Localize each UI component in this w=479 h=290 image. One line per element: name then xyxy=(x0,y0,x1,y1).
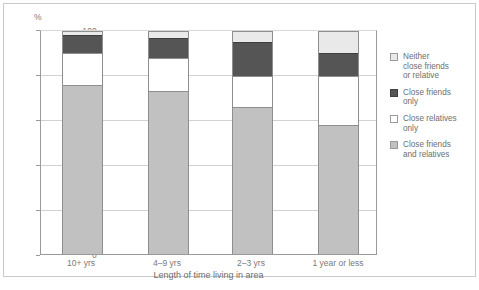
bar-2-3-yrs[interactable] xyxy=(232,31,273,254)
legend-label-close-relatives-only-line1: Close relatives xyxy=(403,114,476,124)
legend-item-neither[interactable]: Neither close friends or relative xyxy=(390,52,476,81)
legend-label-neither-line1: Neither xyxy=(403,52,476,62)
segment-neither xyxy=(233,31,272,42)
bar-top-edge xyxy=(233,31,272,32)
bar-top-edge xyxy=(63,31,102,32)
segment-neither xyxy=(319,31,358,53)
legend-label-neither-line2: close friends xyxy=(403,62,476,72)
segment-close-relatives-only xyxy=(233,76,272,107)
legend-label-close-friends-and-relatives-line1: Close friends xyxy=(403,140,476,150)
bar-4-9-yrs[interactable] xyxy=(148,31,189,254)
segment-close-relatives-only xyxy=(149,58,188,91)
x-tick-label-2-3-yrs: 2–3 yrs xyxy=(206,258,296,268)
x-tick-label-1-year-or-less: 1 year or less xyxy=(293,258,383,268)
segment-close-friends-only xyxy=(149,38,188,58)
x-tick-label-10-plus-yrs: 10+ yrs xyxy=(36,258,126,268)
legend-label-close-friends-only-line1: Close friends xyxy=(403,88,476,98)
plot-area xyxy=(40,30,377,255)
y-tick-mark-0 xyxy=(36,255,40,256)
chart-figure: % 100 80 60 40 20 0 xyxy=(0,0,479,290)
bar-1-year-or-less[interactable] xyxy=(318,31,359,254)
legend-swatch-close-relatives-only-icon xyxy=(390,115,398,123)
legend-swatch-close-friends-only-icon xyxy=(390,89,398,97)
segment-close-friends-only xyxy=(233,42,272,75)
y-axis-unit-label: % xyxy=(34,12,42,22)
segment-close-friends-and-relatives xyxy=(63,85,102,254)
legend-label-close-relatives-only-line2: only xyxy=(403,124,476,134)
segment-close-friends-and-relatives xyxy=(319,125,358,254)
legend-item-close-friends-and-relatives[interactable]: Close friends and relatives xyxy=(390,140,476,159)
segment-close-friends-only xyxy=(319,53,358,75)
segment-close-friends-and-relatives xyxy=(233,107,272,254)
legend-item-close-relatives-only[interactable]: Close relatives only xyxy=(390,114,476,133)
bar-10-plus-yrs[interactable] xyxy=(62,31,103,254)
segment-close-friends-only xyxy=(63,35,102,53)
bar-top-edge xyxy=(319,31,358,32)
segment-close-relatives-only xyxy=(319,76,358,125)
legend-swatch-neither-icon xyxy=(390,53,398,61)
legend-swatch-close-friends-and-relatives-icon xyxy=(390,141,398,149)
legend-item-close-friends-only[interactable]: Close friends only xyxy=(390,88,476,107)
legend-label-close-friends-and-relatives-line2: and relatives xyxy=(403,150,476,160)
chart-legend: Neither close friends or relative Close … xyxy=(390,52,476,166)
bar-top-edge xyxy=(149,31,188,32)
legend-label-neither-line3: or relative xyxy=(403,71,476,81)
segment-close-relatives-only xyxy=(63,53,102,84)
legend-label-close-friends-only-line2: only xyxy=(403,97,476,107)
segment-close-friends-and-relatives xyxy=(149,91,188,254)
x-tick-label-4-9-yrs: 4–9 yrs xyxy=(122,258,212,268)
segment-neither xyxy=(149,31,188,38)
x-axis-title: Length of time living in area xyxy=(40,270,377,280)
